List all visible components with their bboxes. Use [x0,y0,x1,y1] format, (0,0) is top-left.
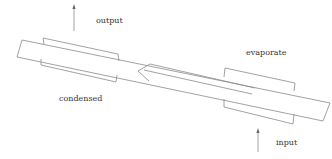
diagram-canvas [0,0,332,159]
input-label: input [276,139,297,147]
condenser-bottom-fin [41,59,117,82]
input-arrow-icon [256,128,259,152]
output-arrow-icon [72,4,75,31]
output-label: output [96,17,123,25]
evaporator-top-fin [224,68,295,91]
evaporate-label: evaporate [246,49,287,57]
internal-flow-arrow-icon [138,64,255,94]
heat-pipe-diagram: output evaporate condensed input [0,0,332,159]
condensed-label: condensed [59,95,102,103]
